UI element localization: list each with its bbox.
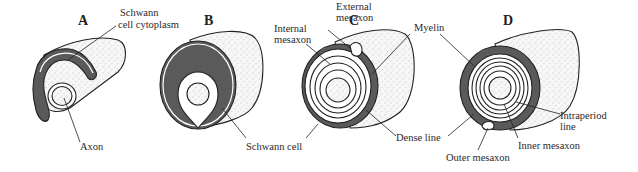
leader-myelin-d: [440, 34, 474, 66]
label-axon: Axon: [80, 141, 104, 152]
axon-c: [326, 78, 350, 102]
panel-a-label: A: [78, 13, 89, 28]
label-inner-mesaxon: Inner mesaxon: [518, 140, 581, 151]
label-schwann-cytoplasm-2: cell cytoplasm: [118, 19, 179, 30]
panel-d-label: D: [503, 13, 513, 28]
panel-b-label: B: [204, 13, 213, 28]
label-external-mesaxon-1: External: [336, 1, 372, 12]
leader-outer-mesaxon: [478, 128, 488, 150]
external-mesaxon-c: [350, 43, 362, 57]
label-outer-mesaxon: Outer mesaxon: [446, 152, 511, 163]
label-schwann-cell: Schwann cell: [246, 141, 302, 152]
label-internal-mesaxon-2: mesaxon: [274, 34, 312, 45]
axon-b: [187, 83, 209, 105]
myelination-diagram: A Schwann cell cytoplasm Axon B Schwann …: [0, 0, 638, 172]
label-schwann-cytoplasm-1: Schwann: [120, 7, 159, 18]
label-intraperiod-line-2: line: [560, 121, 576, 132]
leader-schwann-cell-c: [306, 124, 318, 138]
panel-c: C External mesaxon Internal mesaxon Myel…: [274, 1, 445, 143]
label-intraperiod-line-1: Intraperiod: [560, 110, 607, 121]
axon-a: [52, 87, 72, 106]
panel-a: A Schwann cell cytoplasm Axon: [33, 7, 179, 152]
axon-d: [489, 77, 511, 99]
label-external-mesaxon-2: mesaxon: [336, 12, 374, 23]
leader-dense-line-d: [448, 114, 474, 136]
label-myelin: Myelin: [414, 22, 445, 33]
label-dense-line: Dense line: [396, 132, 441, 143]
panel-d: D Intraperiod line Inner mesaxon Outer m…: [440, 13, 607, 163]
label-internal-mesaxon-1: Internal: [274, 23, 307, 34]
